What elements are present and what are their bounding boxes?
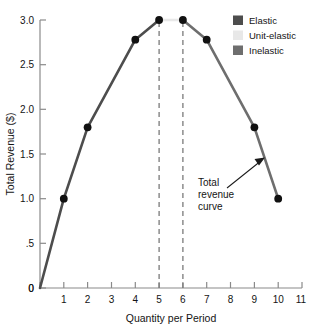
data-point	[131, 36, 139, 44]
legend-label-inelastic: Inelastic	[249, 45, 284, 56]
legend-swatch-unit-elastic	[233, 31, 243, 41]
x-tick-label-10: 10	[273, 294, 285, 305]
data-point	[155, 16, 163, 24]
y-tick-label-1-5: 1.5	[20, 149, 34, 160]
x-tick-label-2: 2	[85, 294, 91, 305]
annotation-total-revenue-curve: Total revenue curve	[198, 158, 265, 213]
curve-segment-elastic	[40, 20, 159, 288]
data-point	[274, 195, 282, 203]
x-axis-title: Quantity per Period	[126, 312, 217, 324]
data-point	[60, 195, 68, 203]
legend-item-unit-elastic[interactable]: Unit-elastic	[233, 30, 296, 41]
legend-label-unit-elastic: Unit-elastic	[249, 30, 296, 41]
total-revenue-chart: 0 .5 1.0 1.5 2.0 2.5 3.0 0 1 2 3 4 5 6	[0, 0, 310, 332]
x-tick-label-7: 7	[204, 294, 210, 305]
data-point	[84, 123, 92, 131]
legend-swatch-elastic	[233, 16, 243, 26]
y-axis-ticks	[40, 20, 46, 288]
x-tick-label-0: 0	[28, 283, 34, 294]
x-tick-label-4: 4	[133, 294, 139, 305]
legend-item-inelastic[interactable]: Inelastic	[233, 45, 284, 56]
data-point	[179, 16, 187, 24]
chart-canvas: 0 .5 1.0 1.5 2.0 2.5 3.0 0 1 2 3 4 5 6	[0, 0, 310, 332]
x-tick-label-5: 5	[156, 294, 162, 305]
x-tick-label-3: 3	[109, 294, 115, 305]
y-tick-label-1-0: 1.0	[20, 193, 34, 204]
y-tick-label-2-0: 2.0	[20, 104, 34, 115]
x-tick-label-6: 6	[180, 294, 186, 305]
y-axis-title: Total Revenue ($)	[4, 113, 16, 196]
chart-legend: Elastic Unit-elastic Inelastic	[233, 15, 296, 56]
x-axis-ticks	[40, 282, 302, 288]
annotation-line-2: revenue	[198, 189, 235, 200]
data-point	[203, 36, 211, 44]
annotation-line-1: Total	[198, 177, 219, 188]
x-tick-label-1: 1	[61, 294, 67, 305]
x-tick-label-9: 9	[252, 294, 258, 305]
data-point	[251, 123, 259, 131]
annotation-arrow-line	[227, 160, 262, 188]
x-tick-label-8: 8	[228, 294, 234, 305]
legend-item-elastic[interactable]: Elastic	[233, 15, 277, 26]
legend-label-elastic: Elastic	[249, 15, 277, 26]
y-tick-label-3-0: 3.0	[20, 15, 34, 26]
y-tick-label-2-5: 2.5	[20, 59, 34, 70]
x-tick-label-11: 11	[296, 294, 307, 305]
legend-swatch-inelastic	[233, 46, 243, 56]
y-tick-label-0-5: .5	[26, 238, 35, 249]
annotation-line-3: curve	[198, 201, 223, 212]
